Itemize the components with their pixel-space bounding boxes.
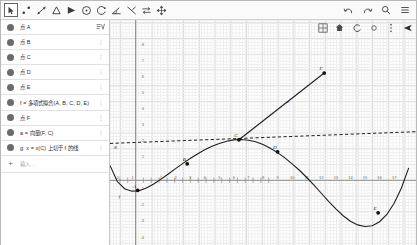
svg-text:13: 13 xyxy=(334,175,339,180)
plot-point-f[interactable] xyxy=(322,71,326,75)
visibility-dot[interactable] xyxy=(7,114,14,121)
grid-icon[interactable] xyxy=(317,22,328,33)
svg-text:5: 5 xyxy=(142,90,145,95)
point-tool[interactable] xyxy=(19,3,33,17)
plot-points[interactable]: ABCDEF xyxy=(132,66,380,214)
algebra-input-placeholder[interactable]: 输入… xyxy=(20,160,35,168)
plot-point-label-e: E xyxy=(373,206,377,211)
algebra-row-label: g: x = x(C) 上切于 f 的线 xyxy=(20,144,109,152)
move-graphics-tool[interactable] xyxy=(154,3,168,17)
search-icon[interactable] xyxy=(380,4,392,16)
zoom-icon[interactable] xyxy=(368,22,379,33)
tangent-line-g xyxy=(110,132,416,144)
svg-text:6: 6 xyxy=(233,175,236,180)
row-kebab-icon[interactable]: ⋮ xyxy=(98,39,104,45)
move-tool[interactable] xyxy=(4,3,18,17)
curve-label-f: f xyxy=(119,194,121,199)
main-toolbar xyxy=(1,1,416,20)
y-tick-labels: -4-3-2-112345678 xyxy=(140,42,144,240)
curve-label-g: g xyxy=(114,144,117,149)
algebra-row-point-b[interactable]: 点 B ⋮ xyxy=(1,35,109,50)
menu-icon[interactable] xyxy=(399,4,411,16)
reflect-tool[interactable] xyxy=(124,3,138,17)
plot-point-label-f: F xyxy=(319,66,324,71)
circle-tool[interactable] xyxy=(79,3,93,17)
svg-text:16: 16 xyxy=(377,175,382,180)
svg-text:15: 15 xyxy=(363,175,368,180)
plot-point-e[interactable] xyxy=(376,211,380,215)
row-kebab-icon[interactable]: ⋮ xyxy=(98,69,104,75)
svg-text:-1: -1 xyxy=(130,175,134,180)
arc-tool[interactable] xyxy=(94,3,108,17)
angle-tool[interactable] xyxy=(64,3,78,17)
more-icon[interactable] xyxy=(385,22,396,33)
svg-text:1: 1 xyxy=(142,154,145,159)
algebra-row-point-f[interactable]: 点 F ⋮ xyxy=(1,111,109,126)
tool-group xyxy=(4,3,168,17)
slider-tool[interactable] xyxy=(139,3,153,17)
row-kebab-icon[interactable]: ⋮ xyxy=(98,115,104,121)
visibility-dot[interactable] xyxy=(7,144,14,151)
svg-text:3: 3 xyxy=(142,122,145,127)
redo-icon[interactable] xyxy=(361,4,373,16)
plot-point-c[interactable] xyxy=(237,138,241,142)
plot-point-d[interactable] xyxy=(276,150,280,154)
algebra-row-label: 点 C xyxy=(20,53,109,61)
svg-text:4: 4 xyxy=(142,106,145,111)
row-kebab-icon[interactable]: ⋮ xyxy=(98,54,104,60)
add-icon[interactable]: + xyxy=(6,160,15,168)
algebra-row-polynomial-fit[interactable]: f = 多项式拟合(A, B, C, D, E) ⋮ xyxy=(1,95,109,110)
plot-point-b[interactable] xyxy=(185,162,189,166)
svg-text:-3: -3 xyxy=(140,218,144,223)
line-tool[interactable] xyxy=(34,3,48,17)
algebra-input-row[interactable]: + 输入… xyxy=(1,156,109,173)
visibility-dot[interactable] xyxy=(7,39,14,46)
algebra-row-point-a[interactable]: 点 A xyxy=(1,20,109,35)
visibility-dot[interactable] xyxy=(7,99,14,106)
row-kebab-icon[interactable]: ⋮ xyxy=(98,100,104,106)
visibility-dot[interactable] xyxy=(7,129,14,136)
home-icon[interactable] xyxy=(334,22,345,33)
svg-text:10: 10 xyxy=(290,175,295,180)
algebra-row-vector-a[interactable]: a = 向量(F, C) ⋮ xyxy=(1,126,109,141)
polygon-tool[interactable] xyxy=(49,3,63,17)
svg-text:8: 8 xyxy=(262,175,265,180)
undo-icon[interactable] xyxy=(342,4,354,16)
row-kebab-icon[interactable]: ⋮ xyxy=(98,145,104,151)
undo-view-icon[interactable] xyxy=(351,22,362,33)
algebra-row-point-c[interactable]: 点 C ⋮ xyxy=(1,50,109,65)
svg-text:17: 17 xyxy=(392,175,397,180)
algebra-row-point-d[interactable]: 点 D ⋮ xyxy=(1,65,109,80)
svg-text:-4: -4 xyxy=(140,235,144,240)
measure-angle-tool[interactable] xyxy=(109,3,123,17)
svg-text:2: 2 xyxy=(174,175,177,180)
graphics-view[interactable]: -2-11234567891011121314151617 -4-3-2-112… xyxy=(110,20,416,245)
svg-text:-2: -2 xyxy=(140,202,144,207)
svg-text:9: 9 xyxy=(276,175,279,180)
curve-annotations: fag xyxy=(114,99,289,200)
vector-a xyxy=(239,73,324,140)
plot-point-a[interactable] xyxy=(136,188,140,192)
visibility-dot[interactable] xyxy=(7,69,14,76)
plot-point-label-a: A xyxy=(132,184,137,189)
visibility-dot[interactable] xyxy=(7,54,14,61)
visibility-dot[interactable] xyxy=(7,84,14,91)
algebra-row-label: 点 B xyxy=(20,38,109,46)
x-tick-labels: -2-11234567891011121314151617 xyxy=(116,175,398,180)
algebra-row-label: a = 向量(F, C) xyxy=(20,129,109,137)
algebra-row-tangent-g[interactable]: g: x = x(C) 上切于 f 的线 ⋮ xyxy=(1,141,109,156)
svg-text:5: 5 xyxy=(218,175,221,180)
toolbar-actions xyxy=(342,4,411,16)
algebra-view[interactable]: 点 A 点 B ⋮ 点 C ⋮ 点 D ⋮ 点 E ⋮ f = 多 xyxy=(1,20,110,245)
algebra-row-point-e[interactable]: 点 E ⋮ xyxy=(1,80,109,95)
svg-text:14: 14 xyxy=(348,175,353,180)
row-kebab-icon[interactable]: ⋮ xyxy=(98,130,104,136)
row-kebab-icon[interactable]: ⋮ xyxy=(98,84,104,90)
graphics-view-toolbar xyxy=(317,22,413,33)
algebra-row-label: f = 多项式拟合(A, B, C, D, E) xyxy=(20,99,109,107)
visibility-menu-icon[interactable] xyxy=(96,23,105,31)
plot-svg: -2-11234567891011121314151617 -4-3-2-112… xyxy=(110,20,416,245)
visibility-dot[interactable] xyxy=(7,24,14,31)
pointer-icon[interactable] xyxy=(402,22,413,33)
svg-text:8: 8 xyxy=(142,42,145,47)
